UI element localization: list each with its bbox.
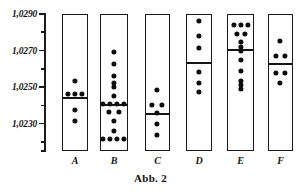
y-axis-minor-tick — [41, 68, 46, 70]
figure-abb-2: 1,02901,02701,02501,0230 ABCDEF Abb. 2 — [0, 0, 301, 192]
y-axis-major-tick — [39, 50, 46, 52]
mean-line — [268, 63, 293, 65]
column-letter-d: D — [195, 155, 202, 166]
column-letter-f: F — [277, 155, 284, 166]
y-axis-tick-label: 1,0230 — [12, 119, 37, 129]
figure-caption: Abb. 2 — [0, 172, 301, 184]
y-axis-major-tick — [39, 123, 46, 125]
y-axis-spine — [44, 14, 46, 151]
y-axis-minor-tick — [41, 141, 46, 143]
y-axis-minor-tick — [41, 105, 46, 107]
y-axis-tick-label: 1,0250 — [12, 82, 37, 92]
column-letter-b: B — [111, 155, 118, 166]
column-letter-e: E — [237, 155, 244, 166]
y-axis-tick-label: 1,0270 — [12, 46, 37, 56]
y-axis-tick-label: 1,0290 — [12, 9, 37, 19]
mean-line — [62, 97, 88, 99]
y-axis-end-cap — [41, 150, 46, 152]
mean-line — [186, 62, 212, 64]
y-axis-major-tick — [39, 86, 46, 88]
column-box — [145, 14, 170, 151]
column-letter-a: A — [72, 155, 79, 166]
y-axis-minor-tick — [41, 31, 46, 33]
column-letter-c: C — [154, 155, 161, 166]
y-axis-end-cap — [41, 13, 46, 15]
